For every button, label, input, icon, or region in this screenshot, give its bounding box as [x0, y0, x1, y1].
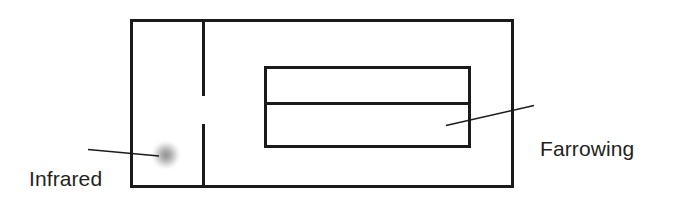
farrowing-crate-outline [266, 68, 470, 147]
label-infrared-lamp: Infrared lamp [29, 114, 102, 204]
leader-line-farrowing-crate [446, 106, 534, 126]
label-farrowing-crate: Farrowing crate [540, 84, 634, 204]
diagram-canvas: Infrared lamp Farrowing crate [0, 0, 683, 204]
label-infrared-lamp-line1: Infrared [29, 166, 102, 192]
label-farrowing-crate-line1: Farrowing [540, 136, 634, 162]
